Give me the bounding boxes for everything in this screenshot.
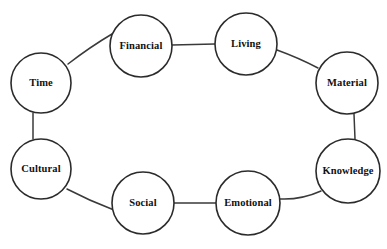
node-label-material: Material <box>327 77 367 88</box>
connector-knowledge-to-emotional <box>280 191 321 199</box>
node-label-cultural: Cultural <box>21 163 60 174</box>
node-label-emotional: Emotional <box>224 197 272 208</box>
node-knowledge[interactable]: Knowledge <box>316 139 380 203</box>
node-cultural[interactable]: Cultural <box>11 139 71 199</box>
node-label-living: Living <box>231 38 261 49</box>
node-time[interactable]: Time <box>11 53 71 113</box>
node-label-financial: Financial <box>120 40 163 51</box>
node-financial[interactable]: Financial <box>110 15 172 77</box>
connector-financial-to-living <box>172 44 215 45</box>
node-living[interactable]: Living <box>215 13 277 75</box>
connector-material-to-knowledge <box>354 114 355 139</box>
connector-lines-group <box>33 34 355 210</box>
cycle-diagram-svg: TimeFinancialLivingMaterialKnowledgeEmot… <box>0 0 387 249</box>
node-material[interactable]: Material <box>316 52 378 114</box>
nodes-group: TimeFinancialLivingMaterialKnowledgeEmot… <box>11 13 380 235</box>
connector-social-to-cultural <box>67 189 114 210</box>
node-label-time: Time <box>29 77 53 88</box>
node-social[interactable]: Social <box>112 172 174 234</box>
node-emotional[interactable]: Emotional <box>216 171 280 235</box>
node-label-knowledge: Knowledge <box>322 165 373 176</box>
connector-living-to-material <box>277 50 318 68</box>
connector-time-to-financial <box>68 34 112 64</box>
cycle-diagram-canvas: TimeFinancialLivingMaterialKnowledgeEmot… <box>0 0 387 249</box>
node-label-social: Social <box>129 197 156 208</box>
